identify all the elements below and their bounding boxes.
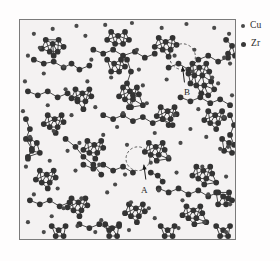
zr-atom [47,180,53,186]
cu-atom [123,173,127,177]
zr-atom [209,171,215,177]
cu-atom [48,159,52,163]
zr-atom [226,140,232,146]
cu-atom [227,32,231,36]
zr-atom [134,85,140,91]
zr-atom [212,112,218,118]
zr-atom [45,88,51,94]
zr-atom [208,79,214,85]
zr-atom [37,168,43,174]
zr-atom [152,51,158,57]
zr-atom [59,112,65,118]
zr-atom [94,150,100,156]
zr-atom [63,223,69,229]
cu-atom [210,75,214,79]
zr-atom [184,203,190,209]
cu-atom [97,163,101,167]
cu-atom [109,75,113,79]
zr-atom [148,152,154,158]
cu-atom [38,46,42,50]
cu-atom [42,230,46,234]
zr-atom [223,37,229,43]
zr-atom [227,223,233,229]
zr-atom [120,41,126,47]
zr-atom [122,210,128,216]
zr-atom [227,102,233,108]
legend-item-cu: Cu [241,17,279,35]
zr-atom [213,223,219,229]
cu-atom [121,111,125,115]
cu-atom [130,21,134,25]
zr-atom [170,122,176,128]
zr-atom [215,59,221,65]
cu-atom [147,206,151,210]
cu-atom [127,228,131,232]
zr-atom [215,201,221,207]
cu-atom [77,141,81,145]
zr-atom [134,219,140,225]
zr-atom [27,126,33,132]
cu-atom [202,220,206,224]
zr-atom [130,118,136,124]
cu-atom [101,133,105,137]
zr-atom [106,233,112,239]
cu-atom [224,230,228,234]
zr-atom [114,233,120,239]
zr-atom [142,55,148,61]
zr-atom [37,150,43,156]
cu-atom [125,143,129,147]
cu-atom [28,135,32,139]
zr-atom [146,140,152,146]
zr-atom [56,227,62,233]
cu-atom [56,186,60,190]
zr-atom [213,180,219,186]
zr-atom [140,201,146,207]
atom-scatter-canvas [20,20,235,239]
annotation-layer [126,44,195,180]
cu-atom [26,220,30,224]
zr-atom [231,122,235,128]
zr-atom [115,33,121,39]
cu-atom [230,93,234,97]
zr-atom [140,114,146,120]
zr-atom [219,136,225,142]
cu-atom [42,71,46,75]
cu-atom [32,32,36,36]
zr-atom [207,164,213,170]
legend-label-cu: Cu [250,21,262,31]
zr-atom [217,96,223,102]
cu-atom [23,79,27,83]
zr-atom [98,172,104,178]
zr-atom [186,215,192,221]
zr-atom [219,108,225,114]
legend-item-zr: Zr [241,35,279,53]
cu-atom [115,125,119,129]
cu-marker-icon [241,24,245,28]
zr-atom [142,149,148,155]
zr-atom [217,233,223,239]
zr-atom [213,126,219,132]
zr-atom [100,145,106,151]
zr-atom [69,95,75,101]
cu-atom [172,54,176,58]
zr-atom [106,227,112,233]
zr-atom [229,150,235,156]
cu-atom [226,145,230,149]
zr-atom [176,61,182,67]
zr-atom [80,90,86,96]
zr-atom [201,83,207,89]
zr-atom [91,142,97,148]
zr-atom [156,152,162,158]
zr-atom [67,199,73,205]
zr-atom [193,215,199,221]
cu-atom [32,192,36,196]
cu-atom [184,22,188,26]
cu-atom [165,77,169,81]
cu-atom [228,202,232,206]
zr-atom [81,147,87,153]
zr-atom [192,221,198,227]
cu-atom [160,26,164,30]
cu-atom [93,230,97,234]
cu-atom [196,107,200,111]
cu-atom [63,87,67,91]
